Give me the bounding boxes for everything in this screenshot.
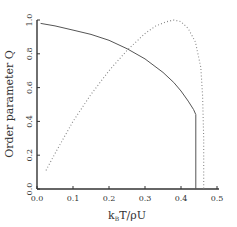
x-tick-label: 0.3 — [139, 194, 152, 203]
dotted-curve — [46, 20, 204, 189]
y-tick-label: 0.4 — [25, 115, 34, 128]
x-tick-label: 0.5 — [211, 194, 224, 203]
plot-area: 0.00.10.20.30.40.50.00.20.40.60.81.0 Ord… — [0, 0, 237, 227]
y-tick-label: 0.8 — [25, 47, 34, 60]
x-tick-label: 0.1 — [67, 194, 80, 203]
y-tick-label: 0.0 — [25, 183, 34, 196]
solid-curve — [41, 23, 196, 189]
axes: 0.00.10.20.30.40.50.00.20.40.60.81.0 — [25, 14, 223, 203]
x-tick-label: 0.4 — [175, 194, 188, 203]
y-tick-label: 1.0 — [25, 14, 34, 27]
order-parameter-chart: 0.00.10.20.30.40.50.00.20.40.60.81.0 Ord… — [0, 0, 237, 227]
series-group — [41, 20, 204, 189]
x-axis-title: kBT/ρU — [108, 209, 146, 222]
y-axis-title: Order parameter Q — [3, 50, 16, 158]
y-tick-label: 0.2 — [25, 149, 34, 162]
y-tick-label: 0.6 — [25, 81, 34, 94]
x-tick-label: 0.2 — [103, 194, 116, 203]
x-axis-title-rest: T/ρU — [119, 209, 146, 222]
